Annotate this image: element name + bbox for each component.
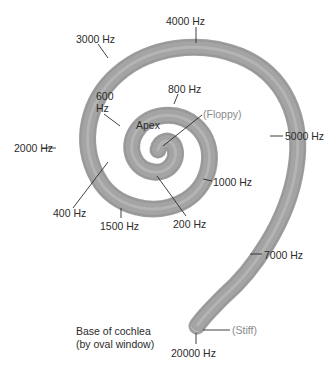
label-1500hz: 1500 Hz	[100, 220, 139, 232]
label-7000hz: 7000 Hz	[264, 249, 303, 261]
label-base-line2: (by oval window)	[76, 338, 154, 350]
label-400hz: 400 Hz	[53, 207, 86, 219]
label-3000hz: 3000 Hz	[76, 33, 115, 45]
label-floppy: (Floppy)	[203, 108, 242, 120]
label-5000hz: 5000 Hz	[285, 130, 324, 142]
label-4000hz: 4000 Hz	[166, 15, 205, 27]
label-1000hz: 1000 Hz	[213, 176, 252, 188]
label-base-line1: Base of cochlea	[76, 325, 151, 337]
label-stiff: (Stiff)	[232, 324, 257, 336]
label-600hz: 600 Hz	[96, 90, 118, 114]
label-800hz: 800 Hz	[168, 83, 201, 95]
label-apex: Apex	[136, 119, 160, 131]
label-200hz: 200 Hz	[173, 218, 206, 230]
label-20000hz: 20000 Hz	[171, 347, 216, 359]
cochlea-diagram: 4000 Hz 3000 Hz 800 Hz 600 Hz 5000 Hz 20…	[0, 0, 335, 371]
cochlea-spiral	[0, 0, 335, 371]
label-2000hz: 2000 Hz	[14, 142, 53, 154]
